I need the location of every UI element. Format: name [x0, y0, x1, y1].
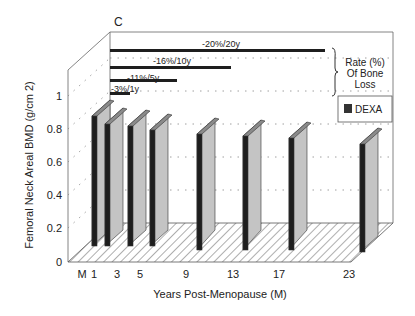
rate-label: -16%/10y — [153, 56, 192, 66]
rate-label: -20%/20y — [202, 39, 241, 49]
svg-text:Of Bone: Of Bone — [347, 68, 384, 79]
rate-bar — [110, 66, 231, 69]
x-tick: 13 — [227, 268, 239, 280]
y-tick: 0.6 — [47, 156, 62, 168]
x-axis-label: Years Post-Menopause (M) — [153, 288, 287, 300]
legend-label: DEXA — [355, 104, 383, 115]
x-tick: 9 — [183, 268, 189, 280]
rate-bar — [110, 92, 130, 95]
bmd-chart: C 0 0.2 0.4 0.6 0.8 1 Femoral Neck Areal… — [0, 0, 415, 316]
brace-icon — [332, 48, 338, 96]
svg-text:Loss: Loss — [354, 79, 375, 90]
bracket-label: Rate (%) Of Bone Loss — [345, 57, 384, 90]
x-axis: M 1 3 5 9 13 17 23 — [77, 268, 355, 280]
x-tick: 23 — [343, 268, 355, 280]
x-tick: M — [77, 268, 86, 280]
y-tick: 0 — [56, 256, 62, 268]
x-tick: 5 — [137, 268, 143, 280]
y-tick: 1 — [56, 90, 62, 102]
x-tick: 1 — [91, 268, 97, 280]
y-tick: 0.2 — [47, 222, 62, 234]
y-tick: 0.4 — [47, 189, 62, 201]
svg-text:Rate (%): Rate (%) — [345, 57, 384, 68]
x-tick: 3 — [114, 268, 120, 280]
legend: DEXA — [338, 96, 392, 122]
y-tick: 0.8 — [47, 123, 62, 135]
rate-annotations: -20%/20y -16%/10y -11%/5y -3%/1y — [110, 39, 325, 95]
rate-bar — [110, 79, 177, 82]
legend-swatch — [344, 104, 352, 113]
y-axis-label: Femoral Neck Areal BMD (g/cm 2) — [23, 81, 35, 248]
panel-label: C — [114, 15, 123, 29]
y-axis: 0 0.2 0.4 0.6 0.8 1 — [47, 90, 62, 268]
rate-bar — [110, 49, 325, 52]
x-tick: 17 — [273, 268, 285, 280]
